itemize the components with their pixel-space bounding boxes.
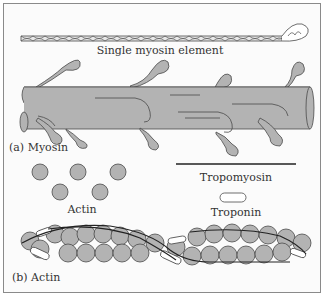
single-myosin-element xyxy=(21,24,308,41)
actin-filament xyxy=(21,224,311,265)
myosin-actin-diagram: Single myosin element (a) Myosin xyxy=(0,0,325,299)
actin-monomers-legend xyxy=(32,164,126,200)
actin-legend-label: Actin xyxy=(66,203,96,216)
troponin-legend-label: Troponin xyxy=(211,206,262,219)
panel-b-label: (b) Actin xyxy=(12,271,60,284)
panel-a-label: (a) Myosin xyxy=(9,141,68,154)
single-myosin-label: Single myosin element xyxy=(97,44,224,57)
troponin-legend-shape xyxy=(220,193,246,202)
tropomyosin-legend-label: Tropomyosin xyxy=(200,171,272,184)
